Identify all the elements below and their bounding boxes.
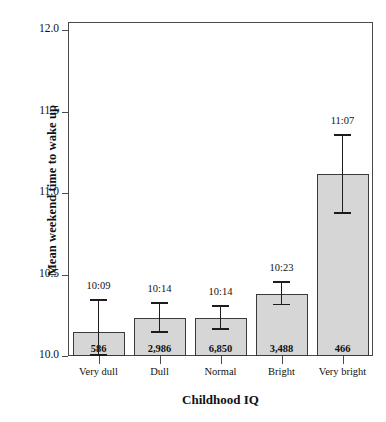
- bar-value-label: 10:14: [148, 283, 172, 294]
- x-tick-label: Normal: [204, 366, 236, 377]
- error-bar-stem: [220, 305, 222, 329]
- error-bar-cap-bottom: [151, 331, 168, 333]
- chart-figure: Mean weekend time to wake up 10.010.511.…: [0, 0, 386, 422]
- y-tick: 10.5: [0, 275, 68, 276]
- error-bar: [89, 299, 109, 356]
- x-tick-mark: [282, 356, 283, 364]
- error-bar-cap-top: [334, 134, 351, 136]
- y-tick: 11.5: [0, 112, 68, 113]
- bar-sample-size-label: 2,986: [135, 343, 185, 354]
- error-bar-cap-top: [90, 299, 107, 301]
- error-bar-stem: [98, 299, 100, 356]
- error-bar-cap-top: [151, 302, 168, 304]
- y-tick: 10.0: [0, 356, 68, 357]
- bar-sample-size-label: 3,488: [257, 343, 307, 354]
- error-bar-stem: [281, 281, 283, 305]
- y-tick-label: 11.5: [39, 104, 59, 116]
- error-bar: [333, 134, 353, 214]
- bar-value-label: 10:14: [209, 286, 233, 297]
- x-tick-label: Bright: [268, 366, 295, 377]
- x-tick-mark: [160, 356, 161, 364]
- y-tick: 11.0: [0, 193, 68, 194]
- error-bar: [150, 302, 170, 333]
- error-bar-stem: [342, 134, 344, 214]
- error-bar-cap-bottom: [273, 304, 290, 306]
- bar-value-label: 11:07: [331, 115, 355, 126]
- y-tick-label: 10.5: [39, 267, 59, 279]
- bar-value-label: 10:23: [270, 262, 294, 273]
- x-tick-label: Very dull: [79, 366, 118, 377]
- y-tick-label: 10.0: [39, 348, 59, 360]
- x-tick-mark: [221, 356, 222, 364]
- y-tick-label: 11.0: [39, 185, 59, 197]
- bar-sample-size-label: 6,850: [196, 343, 246, 354]
- x-tick-mark: [343, 356, 344, 364]
- x-tick-label: Very bright: [319, 366, 367, 377]
- bar-sample-size-label: 466: [318, 343, 368, 354]
- x-tick-mark: [99, 356, 100, 364]
- bar-value-label: 10:09: [87, 280, 111, 291]
- error-bar: [211, 305, 231, 329]
- error-bar-cap-bottom: [212, 328, 229, 330]
- y-tick-label: 12.0: [39, 22, 59, 34]
- x-tick-label: Dull: [150, 366, 169, 377]
- error-bar-stem: [159, 302, 161, 333]
- y-tick-mark: [62, 356, 68, 357]
- error-bar-cap-top: [273, 281, 290, 283]
- y-tick: 12.0: [0, 30, 68, 31]
- error-bar: [272, 281, 292, 305]
- x-axis-title: Childhood IQ: [68, 392, 373, 408]
- error-bar-cap-bottom: [334, 212, 351, 214]
- error-bar-cap-top: [212, 305, 229, 307]
